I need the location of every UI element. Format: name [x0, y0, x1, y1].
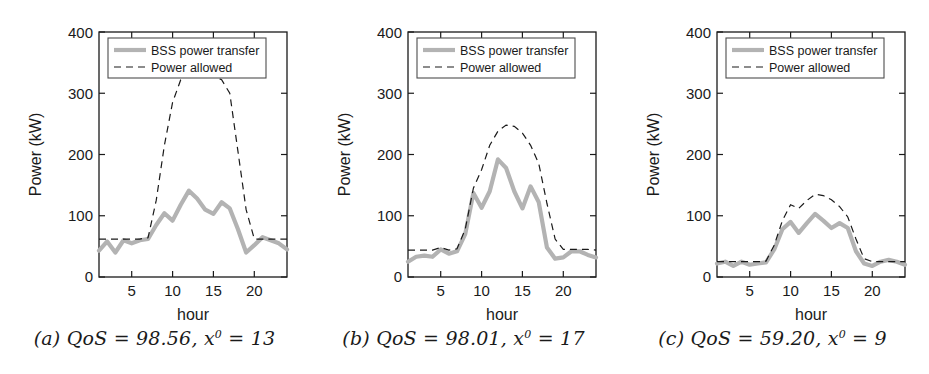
- y-tick-label: 400: [68, 24, 93, 41]
- caption-b-sup: 0: [524, 328, 531, 341]
- y-tick-label: 0: [703, 268, 711, 285]
- x-axis-title: hour: [795, 306, 828, 323]
- caption-b-var: x: [513, 327, 524, 349]
- x-tick-labels-a: 5 10 15 20: [128, 282, 263, 299]
- x-tick-label: 10: [473, 282, 490, 299]
- panel-a: 0 100 200 300 400 5 10 15 20 hour Power …: [0, 0, 309, 374]
- panel-c-plot: 0 100 200 300 400 5 10 15 20 hour Power …: [618, 0, 927, 330]
- chart-svg-b: 0 100 200 300 400 5 10 15 20 hour Power …: [309, 0, 618, 330]
- chart-svg-c: 0 100 200 300 400 5 10 15 20 hour Power …: [618, 0, 927, 330]
- caption-b-metric: QoS: [376, 327, 417, 349]
- caption-b-qos: 98.01: [445, 327, 500, 349]
- x-tick-label: 20: [246, 282, 263, 299]
- panel-c: 0 100 200 300 400 5 10 15 20 hour Power …: [618, 0, 927, 374]
- caption-a-eq1: =: [114, 327, 130, 349]
- caption-b-comma: ,: [501, 327, 507, 349]
- figure-three-panel-power-charts: 0 100 200 300 400 5 10 15 20 hour Power …: [0, 0, 929, 374]
- legend-a: BSS power transfer Power allowed: [108, 38, 266, 78]
- panel-a-plot: 0 100 200 300 400 5 10 15 20 hour Power …: [0, 0, 309, 330]
- caption-b-x0: 17: [560, 327, 585, 349]
- caption-b-tag: (b): [342, 327, 370, 349]
- y-axis-title: Power (kW): [645, 113, 662, 197]
- panel-b: 0 100 200 300 400 5 10 15 20 hour Power …: [309, 0, 618, 374]
- caption-c: (c) QoS = 59.20, x0 = 9: [618, 327, 927, 349]
- legend-label-allowed: Power allowed: [151, 61, 232, 75]
- y-tick-label: 100: [686, 207, 711, 224]
- x-axis-title: hour: [177, 306, 210, 323]
- caption-a-var: x: [204, 327, 215, 349]
- x-tick-label: 20: [555, 282, 572, 299]
- y-tick-label: 300: [686, 85, 711, 102]
- caption-c-x0: 9: [874, 327, 886, 349]
- x-tick-label: 15: [514, 282, 531, 299]
- x-axis-title: hour: [486, 306, 519, 323]
- legend-b: BSS power transfer Power allowed: [417, 38, 575, 78]
- x-tick-label: 15: [823, 282, 840, 299]
- caption-a-tag: (a): [34, 327, 61, 349]
- y-axis-title: Power (kW): [27, 113, 44, 197]
- y-tick-label: 400: [686, 24, 711, 41]
- legend-label-bss: BSS power transfer: [769, 44, 877, 58]
- y-tick-label: 200: [68, 146, 93, 163]
- x-tick-label: 15: [205, 282, 222, 299]
- y-axis-title: Power (kW): [336, 113, 353, 197]
- legend-c: BSS power transfer Power allowed: [726, 38, 884, 78]
- x-tick-label: 5: [437, 282, 445, 299]
- caption-a-qos: 98.56: [136, 327, 191, 349]
- caption-c-metric: QoS: [691, 327, 732, 349]
- caption-a-sup: 0: [215, 328, 222, 341]
- x-tick-label: 5: [746, 282, 754, 299]
- caption-c-tag: (c): [658, 327, 684, 349]
- caption-c-eq2: =: [852, 327, 868, 349]
- y-tick-label: 300: [68, 85, 93, 102]
- y-tick-label: 200: [377, 146, 402, 163]
- y-tick-labels-b: 0 100 200 300 400: [377, 24, 402, 286]
- y-tick-label: 100: [377, 207, 402, 224]
- y-tick-labels-c: 0 100 200 300 400: [686, 24, 711, 286]
- x-tick-label: 10: [164, 282, 181, 299]
- caption-a: (a) QoS = 98.56, x0 = 13: [0, 327, 309, 349]
- x-tick-label: 20: [864, 282, 881, 299]
- y-tick-label: 200: [686, 146, 711, 163]
- y-tick-label: 100: [68, 207, 93, 224]
- x-tick-label: 10: [782, 282, 799, 299]
- legend-label-bss: BSS power transfer: [460, 44, 568, 58]
- caption-c-sup: 0: [839, 328, 846, 341]
- caption-b-eq2: =: [538, 327, 554, 349]
- caption-b-eq1: =: [423, 327, 439, 349]
- caption-a-eq2: =: [228, 327, 244, 349]
- caption-a-comma: ,: [191, 327, 197, 349]
- caption-c-var: x: [828, 327, 839, 349]
- y-tick-label: 0: [85, 268, 93, 285]
- y-tick-label: 300: [377, 85, 402, 102]
- legend-label-allowed: Power allowed: [769, 61, 850, 75]
- y-tick-label: 400: [377, 24, 402, 41]
- x-tick-label: 5: [128, 282, 136, 299]
- legend-label-allowed: Power allowed: [460, 61, 541, 75]
- x-tick-labels-b: 5 10 15 20: [437, 282, 572, 299]
- caption-c-qos: 59.20: [760, 327, 815, 349]
- y-tick-label: 0: [394, 268, 402, 285]
- x-tick-labels-c: 5 10 15 20: [746, 282, 881, 299]
- chart-svg-a: 0 100 200 300 400 5 10 15 20 hour Power …: [0, 0, 309, 330]
- caption-b: (b) QoS = 98.01, x0 = 17: [309, 327, 618, 349]
- legend-label-bss: BSS power transfer: [151, 44, 259, 58]
- caption-c-comma: ,: [815, 327, 821, 349]
- caption-a-metric: QoS: [67, 327, 108, 349]
- caption-c-eq1: =: [737, 327, 753, 349]
- panel-b-plot: 0 100 200 300 400 5 10 15 20 hour Power …: [309, 0, 618, 330]
- caption-a-x0: 13: [251, 327, 276, 349]
- y-tick-labels-a: 0 100 200 300 400: [68, 24, 93, 286]
